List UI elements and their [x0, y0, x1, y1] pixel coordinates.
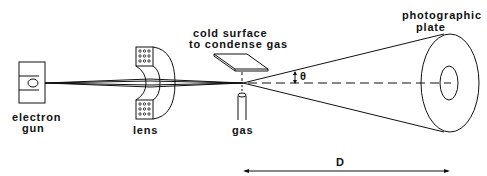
lens-label: lens	[133, 124, 158, 136]
theta-label: θ	[300, 70, 307, 82]
gas-label: gas	[232, 124, 253, 136]
gas-nozzle	[238, 85, 246, 120]
electron-gun	[19, 62, 45, 103]
photographic-plate-label-2: plate	[416, 21, 446, 33]
distance-arrow	[243, 169, 450, 173]
diagram: electron gun lens cold surface to conden…	[0, 0, 487, 176]
cold-surface	[214, 54, 268, 82]
distance-label: D	[336, 156, 345, 168]
theta-angle-marker	[293, 71, 297, 84]
lens	[136, 47, 175, 119]
photographic-plate-label: photographic	[402, 9, 482, 21]
cold-surface-label-2: to condense gas	[189, 38, 288, 50]
electron-gun-label-2: gun	[22, 122, 45, 134]
electron-beam	[45, 79, 243, 87]
diagram-canvas: electron gun lens cold surface to conden…	[0, 0, 487, 176]
